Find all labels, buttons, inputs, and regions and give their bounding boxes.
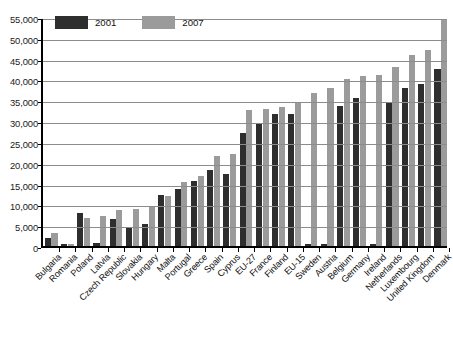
bar-group: [77, 19, 90, 246]
bar-group: [142, 19, 155, 246]
legend-item-2001: 2001: [55, 16, 116, 29]
bar-group: [288, 19, 301, 246]
bar-2007: [344, 79, 350, 246]
bar-group: [240, 19, 253, 246]
y-axis-tick-label: 15,000: [0, 180, 38, 191]
bar-2007: [181, 182, 187, 246]
bar-2001: [61, 244, 67, 246]
gridline: [43, 165, 447, 166]
gridline: [43, 227, 447, 228]
bar-2001: [337, 106, 343, 246]
bar-group: [110, 19, 123, 246]
bar-2001: [93, 243, 99, 246]
y-axis-tick-mark: [38, 19, 41, 20]
y-axis-tick-mark: [38, 165, 41, 166]
bar-2007: [230, 154, 236, 246]
bar-group: [191, 19, 204, 246]
bar-2001: [45, 238, 51, 246]
bar-2001: [191, 181, 197, 246]
bar-2001: [321, 244, 327, 246]
bar-2001: [370, 244, 376, 246]
bar-2007: [68, 244, 74, 246]
y-axis-tick-mark: [38, 206, 41, 207]
bar-group: [370, 19, 383, 246]
chart-legend: 2001 2007: [55, 16, 204, 29]
y-axis-tick-mark: [38, 123, 41, 124]
bar-2007: [327, 88, 333, 246]
gridline: [43, 144, 447, 145]
bar-2001: [126, 228, 132, 246]
bar-2007: [165, 196, 171, 246]
bar-group: [126, 19, 139, 246]
bar-group: [418, 19, 431, 246]
legend-label-2007: 2007: [182, 17, 203, 28]
y-axis-tick-label: 30,000: [0, 118, 38, 129]
bar-2001: [305, 244, 311, 246]
y-axis-tick-label: 5,000: [0, 222, 38, 233]
gridline: [43, 186, 447, 187]
bar-group: [386, 19, 399, 246]
legend-item-2007: 2007: [142, 16, 203, 29]
legend-swatch-dark-icon: [55, 16, 88, 29]
bar-group: [337, 19, 350, 246]
bar-group: [61, 19, 74, 246]
bar-group: [321, 19, 334, 246]
bar-2007: [441, 20, 447, 246]
y-axis-tick-mark: [38, 227, 41, 228]
bar-2007: [392, 67, 398, 246]
bars-layer: [43, 19, 447, 246]
bar-group: [175, 19, 188, 246]
y-axis-tick-label: 45,000: [0, 55, 38, 66]
bar-2001: [386, 103, 392, 246]
bar-group: [93, 19, 106, 246]
bar-2001: [402, 88, 408, 246]
bar-2007: [100, 216, 106, 246]
bar-group: [207, 19, 220, 246]
bar-group: [223, 19, 236, 246]
bar-2007: [51, 233, 57, 246]
bar-group: [256, 19, 269, 246]
bar-2007: [246, 110, 252, 246]
bar-2007: [84, 218, 90, 246]
bar-2001: [110, 219, 116, 246]
y-axis-tick-mark: [38, 40, 41, 41]
bar-2007: [311, 93, 317, 246]
gridline: [43, 206, 447, 207]
bar-2001: [77, 213, 83, 246]
legend-swatch-gray-icon: [142, 16, 175, 29]
y-axis-tick-mark: [38, 81, 41, 82]
bar-group: [353, 19, 366, 246]
y-axis-tick-label: 40,000: [0, 76, 38, 87]
bar-group: [402, 19, 415, 246]
bar-2007: [214, 156, 220, 246]
bar-group: [45, 19, 58, 246]
bar-2001: [353, 98, 359, 246]
y-axis-tick-mark: [38, 102, 41, 103]
y-axis-tick-label: 50,000: [0, 34, 38, 45]
bar-2001: [434, 69, 440, 246]
bar-2007: [425, 50, 431, 246]
y-axis-tick-label: 0: [0, 243, 38, 254]
bar-2001: [207, 170, 213, 246]
bar-group: [434, 19, 447, 246]
bar-group: [305, 19, 318, 246]
y-axis-tick-mark: [38, 144, 41, 145]
bar-2007: [279, 107, 285, 246]
gridline: [43, 102, 447, 103]
y-axis-tick-mark: [38, 186, 41, 187]
bar-2007: [263, 109, 269, 246]
y-axis-tick-label: 35,000: [0, 97, 38, 108]
bar-group: [158, 19, 171, 246]
plot-area: [41, 19, 447, 248]
y-axis-tick-label: 10,000: [0, 201, 38, 212]
bar-2001: [158, 195, 164, 246]
gridline: [43, 123, 447, 124]
y-axis-tick-mark: [38, 61, 41, 62]
y-axis-tick-label: 25,000: [0, 138, 38, 149]
bar-group: [272, 19, 285, 246]
y-axis-tick-label: 55,000: [0, 14, 38, 25]
bar-2007: [409, 55, 415, 246]
bar-2001: [175, 189, 181, 246]
legend-label-2001: 2001: [95, 17, 116, 28]
